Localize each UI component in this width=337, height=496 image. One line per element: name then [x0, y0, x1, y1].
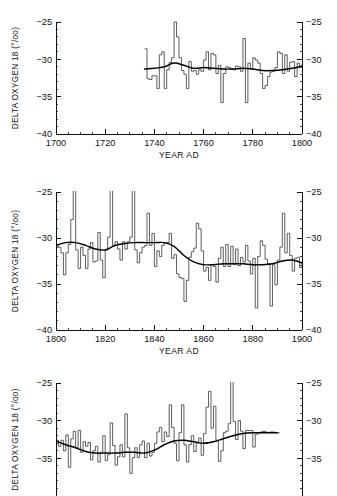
- x-tick-label: 1840: [144, 334, 164, 344]
- y-tick-label: −25: [36, 378, 52, 388]
- x-axis-title: YEAR AD: [159, 150, 199, 160]
- y-tick-label: −30: [306, 55, 322, 65]
- x-tick-label: 1740: [144, 138, 164, 148]
- y-tick-label: −35: [36, 279, 52, 289]
- y-tick-label: −35: [306, 279, 322, 289]
- x-tick-label: 1800: [292, 138, 312, 148]
- x-tick-label: 1720: [95, 138, 115, 148]
- y-axis-title: DELTA OXYGEN 18 (°/oo): [11, 210, 20, 312]
- y-tick-label: −30: [36, 55, 52, 65]
- annual-series: [56, 379, 280, 473]
- chart-panel-2: −25−30−35−25−30−35DELTA OXYGEN 18 (°/oo): [0, 357, 337, 496]
- x-tick-label: 1780: [243, 138, 263, 148]
- annual-series: [145, 22, 305, 103]
- x-tick-label: 1700: [46, 138, 66, 148]
- x-tick-label: 1800: [46, 334, 66, 344]
- chart-panel-0: −25−30−35−40−25−30−35−401700172017401760…: [0, 0, 337, 172]
- y-tick-label: −30: [36, 416, 52, 426]
- x-tick-label: 1820: [95, 334, 115, 344]
- y-tick-label: −25: [36, 17, 52, 27]
- y-axis-title: DELTA OXYGEN 18 (°/oo): [11, 27, 20, 129]
- y-tick-label: −35: [306, 92, 322, 102]
- y-tick-label: −30: [306, 416, 322, 426]
- y-tick-label: −30: [36, 233, 52, 243]
- y-tick-label: −35: [306, 454, 322, 464]
- y-tick-label: −35: [36, 92, 52, 102]
- panel-1700-1800: −25−30−35−40−25−30−35−401700172017401760…: [0, 0, 337, 172]
- annual-series: [56, 186, 304, 308]
- y-tick-label: −35: [36, 454, 52, 464]
- panel-1900-2000: −25−30−35−25−30−35DELTA OXYGEN 18 (°/oo): [0, 357, 337, 496]
- x-tick-label: 1880: [243, 334, 263, 344]
- x-tick-label: 1900: [292, 334, 312, 344]
- y-tick-label: −25: [306, 378, 322, 388]
- y-tick-label: −25: [306, 187, 322, 197]
- y-tick-label: −25: [306, 17, 322, 27]
- chart-panel-1: −25−30−35−40−25−30−35−401800182018401860…: [0, 172, 337, 357]
- panel-1800-1900: −25−30−35−40−25−30−35−401800182018401860…: [0, 172, 337, 357]
- x-tick-label: 1760: [193, 138, 213, 148]
- y-tick-label: −25: [36, 187, 52, 197]
- y-axis-title: DELTA OXYGEN 18 (°/oo): [11, 388, 20, 490]
- y-tick-label: −30: [306, 233, 322, 243]
- delta-oxygen-18-figure: −25−30−35−40−25−30−35−401700172017401760…: [0, 0, 337, 496]
- x-axis-title: YEAR AD: [159, 346, 199, 356]
- x-tick-label: 1860: [193, 334, 213, 344]
